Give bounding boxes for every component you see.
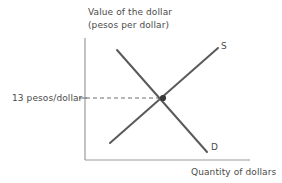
x-axis-title: Quantity of dollars <box>191 166 276 178</box>
equilibrium-point-marker <box>160 95 166 101</box>
equilibrium-price-label: 13 pesos/dollar <box>12 92 82 104</box>
supply-curve-label: S <box>221 40 227 52</box>
demand-curve-label: D <box>211 141 218 153</box>
y-axis-title-line1: Value of the dollar <box>88 6 172 18</box>
y-axis-title-line2: (pesos per dollar) <box>88 19 169 31</box>
demand-curve <box>117 50 207 152</box>
